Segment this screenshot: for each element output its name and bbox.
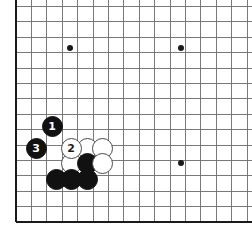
go-board-grid	[0, 0, 252, 232]
stone-move-number: 2	[67, 142, 75, 153]
stone-move-number: 1	[48, 120, 56, 131]
stone-move-3[interactable]: 3	[26, 138, 47, 159]
stone-move-2[interactable]: 2	[61, 138, 82, 159]
go-board-diagram: 132	[0, 0, 252, 232]
stone-move-1[interactable]: 1	[42, 116, 63, 137]
stone-black-h[interactable]	[77, 169, 98, 190]
star-point-upper-left-icon	[67, 45, 73, 51]
stone-move-number: 3	[32, 142, 40, 153]
stone-white-e[interactable]	[92, 153, 113, 174]
star-point-upper-right-icon	[178, 45, 184, 51]
star-point-lower-right-icon	[178, 160, 184, 166]
